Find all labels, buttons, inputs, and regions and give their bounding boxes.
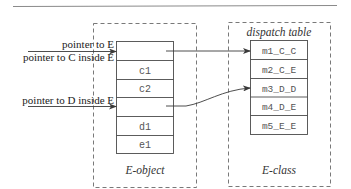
e-object-cell-2: c2 [139,84,151,95]
e-object-cell-5: e1 [139,140,151,151]
dispatch-entry-2: m3_D_D [262,84,297,95]
top-rule [13,6,337,7]
dispatch-table-title: dispatch table [247,26,312,39]
dispatch-table: m1_C_C m2_C_E m3_D_D m4_D_E m5_E_E [251,41,308,135]
e-object-cells: c1 c2 d1 e1 [117,42,174,154]
dispatch-entry-1: m2_C_E [262,65,297,76]
e-class-caption: E-class [261,164,296,176]
pointer-label-e: pointer to E [62,38,114,50]
diagram-canvas: E-object c1 c2 d1 e1 dispatch table E-cl… [0,0,351,189]
dispatch-entry-0: m1_C_C [262,46,297,57]
e-object-cell-4: d1 [139,122,151,133]
e-object-cell-1: c1 [139,66,151,77]
pointer-label-c: pointer to C inside E [23,51,114,63]
dispatch-entry-4: m5_E_E [262,121,297,132]
pointer-label-d: pointer to D inside E [22,94,114,106]
e-object-caption: E-object [125,164,166,177]
vptr-arrow-d [166,88,250,106]
dispatch-entry-3: m4_D_E [262,102,297,113]
